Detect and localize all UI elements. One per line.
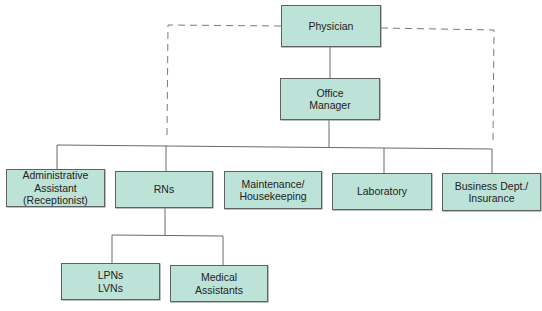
level2-branch-line <box>57 145 492 173</box>
node-laboratory: Laboratory <box>332 173 432 210</box>
dashed-line-left <box>167 25 281 135</box>
node-lpns-lvns: LPNs LVNs <box>61 263 160 300</box>
node-maintenance-housekeeping: Maintenance/ Housekeeping <box>224 171 322 209</box>
node-business-dept-insurance: Business Dept./ Insurance <box>442 173 541 211</box>
node-administrative-assistant: Administrative Assistant (Receptionist) <box>6 169 105 207</box>
node-medical-assistants: Medical Assistants <box>170 265 268 302</box>
solid-connectors <box>57 47 492 265</box>
node-rns: RNs <box>115 171 213 208</box>
dashed-line-right <box>381 28 494 140</box>
level3-branch-line <box>112 235 223 265</box>
node-office-manager: Office Manager <box>280 78 380 120</box>
node-physician: Physician <box>281 5 381 47</box>
